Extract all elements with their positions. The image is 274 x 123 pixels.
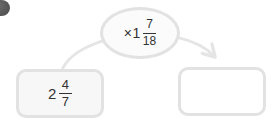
multiply-sign: × xyxy=(124,25,133,41)
multiplier-badge: ×1 7 18 xyxy=(100,7,180,59)
start-whole-number: 2 xyxy=(48,85,57,102)
multiplier-fraction: 7 18 xyxy=(143,18,156,47)
fraction-multiplication-widget: ×1 7 18 2 4 7 xyxy=(0,0,274,123)
multiplier-whole-number: 1 xyxy=(133,25,141,41)
multiplier-denominator: 18 xyxy=(143,34,156,48)
start-fraction: 4 7 xyxy=(59,78,72,110)
start-value-box: 2 4 7 xyxy=(16,69,104,118)
start-numerator: 4 xyxy=(59,78,72,94)
multiplier-numerator: 7 xyxy=(143,18,156,33)
start-denominator: 7 xyxy=(62,94,69,109)
answer-box[interactable] xyxy=(178,67,266,116)
